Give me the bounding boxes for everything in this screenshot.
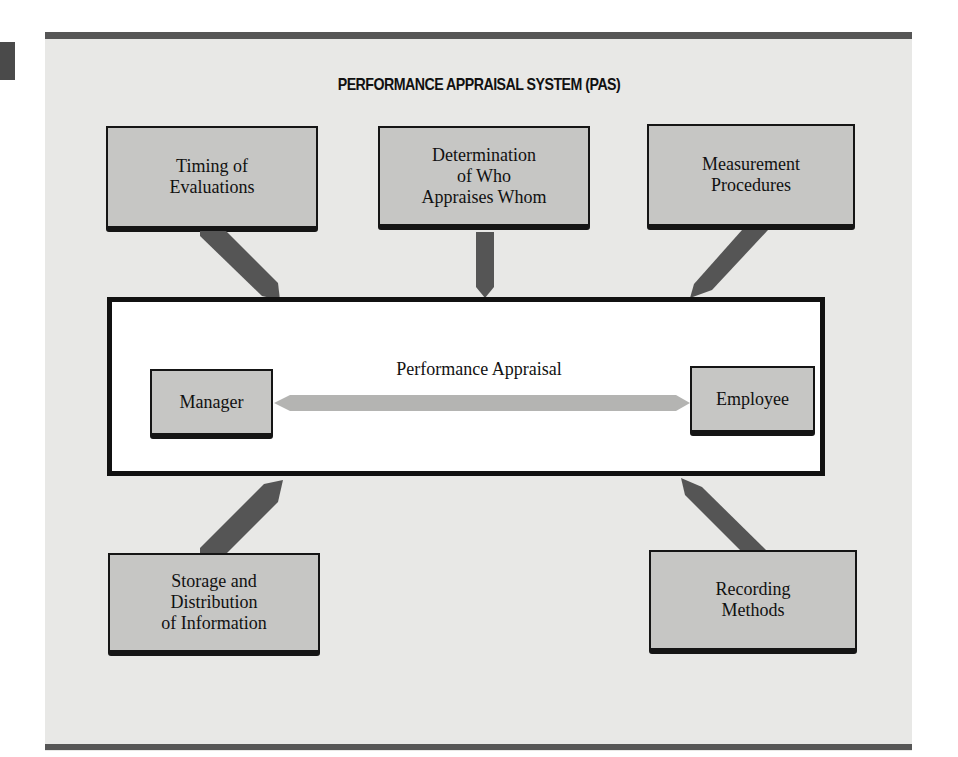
node-manager: Manager: [150, 369, 273, 439]
node-label: Timing of Evaluations: [170, 156, 255, 198]
node-who-appraises-whom: Determination of Who Appraises Whom: [378, 126, 590, 230]
top-rule: [45, 32, 912, 39]
bottom-rule: [45, 744, 912, 750]
node-label: Storage and Distribution of Information: [161, 571, 266, 634]
node-measurement-procedures: Measurement Procedures: [647, 124, 855, 230]
node-timing-of-evaluations: Timing of Evaluations: [106, 126, 318, 232]
node-label: Determination of Who Appraises Whom: [421, 145, 546, 208]
node-storage-and-distribution: Storage and Distribution of Information: [108, 553, 320, 656]
node-recording-methods: Recording Methods: [649, 550, 857, 654]
node-label: Employee: [716, 389, 789, 410]
diagram-title: PERFORMANCE APPRAISAL SYSTEM (PAS): [67, 75, 891, 94]
node-label: Manager: [180, 392, 244, 413]
node-label: Measurement Procedures: [702, 154, 800, 196]
node-label: Recording Methods: [716, 579, 791, 621]
node-employee: Employee: [690, 366, 815, 436]
page-margin-tab: [0, 42, 15, 80]
